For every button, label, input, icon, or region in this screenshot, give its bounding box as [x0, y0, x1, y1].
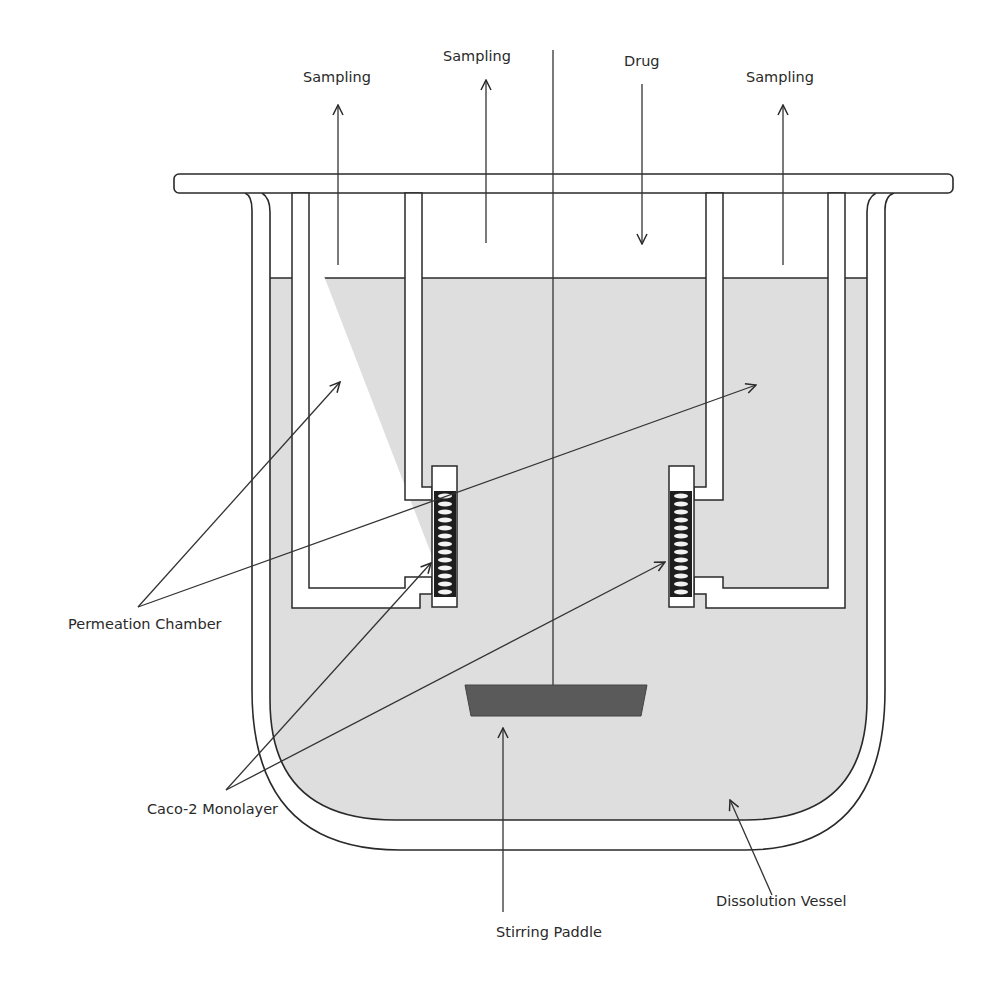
label-drug: Drug	[624, 53, 660, 69]
label-sampling-center: Sampling	[443, 48, 511, 64]
label-permeation-chamber: Permeation Chamber	[68, 616, 222, 632]
label-sampling-left: Sampling	[303, 69, 371, 85]
vessel-rim	[174, 174, 953, 193]
label-sampling-right: Sampling	[746, 69, 814, 85]
label-stirring-paddle: Stirring Paddle	[496, 924, 602, 940]
coil-icon	[434, 491, 456, 597]
coil-icon	[670, 491, 692, 597]
label-dissolution-vessel: Dissolution Vessel	[716, 893, 847, 909]
dissolution-permeation-diagram: Sampling Sampling Drug Sampling Permeati…	[0, 0, 1000, 982]
label-caco2-monolayer: Caco-2 Monolayer	[147, 801, 278, 817]
paddle-blade	[465, 685, 647, 716]
